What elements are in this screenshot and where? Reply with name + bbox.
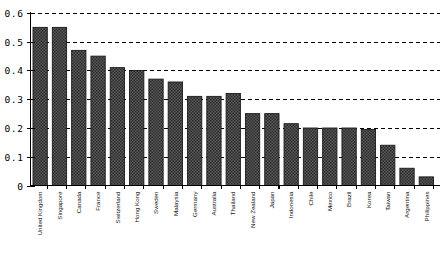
bar-hong-kong	[130, 71, 144, 186]
bar-taiwan	[381, 145, 395, 185]
x-tick-label-japan: Japan	[268, 191, 275, 208]
y-tick-label-0.6: 0.6	[5, 8, 24, 19]
y-tick-label-0.1: 0.1	[5, 152, 24, 163]
x-tick-label-singapore: Singapore	[56, 191, 63, 220]
bar-new-zealand	[245, 114, 259, 186]
bar-argentina	[400, 168, 414, 185]
y-tick-label-0.5: 0.5	[5, 37, 24, 48]
bar-united-kingdom	[33, 27, 47, 185]
x-tick-label-taiwan: Taiwan	[384, 191, 391, 211]
bar-canada	[72, 50, 86, 185]
x-tick-label-germany: Germany	[191, 191, 198, 217]
x-tick-label-argentina: Argentina	[403, 191, 410, 218]
x-tick-label-indonesia: Indonesia	[287, 191, 294, 218]
bar-korea	[361, 129, 375, 185]
x-tick-label-thailand: Thailand	[229, 191, 236, 215]
chart-canvas: 00.10.20.30.40.50.6 United KingdomSingap…	[0, 0, 444, 260]
bar-sweden	[149, 79, 163, 185]
x-tick-label-new-zealand: New Zealand	[249, 191, 256, 228]
bar-france	[91, 56, 105, 185]
bar-malaysia	[168, 82, 182, 186]
bar-switzerland	[110, 68, 124, 186]
x-tick-label-hong-kong: Hong Kong	[133, 191, 140, 223]
bar-germany	[187, 96, 201, 185]
x-tick-label-mexico: Mexico	[326, 191, 333, 211]
y-tick-label-0.4: 0.4	[5, 65, 24, 76]
x-tick-label-australia: Australia	[210, 191, 217, 216]
x-tick-label-chile: Chile	[307, 191, 314, 206]
x-tick-label-philippines: Philippines	[423, 192, 430, 222]
bar-singapore	[52, 27, 66, 185]
x-tick-label-united-kingdom: United Kingdom	[36, 192, 43, 236]
bar-brazil	[342, 128, 356, 186]
bar-philippines	[419, 177, 433, 186]
x-tick-label-malaysia: Malaysia	[172, 191, 179, 216]
bar-indonesia	[284, 124, 298, 186]
bar-australia	[207, 96, 221, 185]
x-tick-label-switzerland: Switzerland	[114, 191, 121, 224]
x-tick-label-canada: Canada	[75, 191, 82, 213]
bar-japan	[265, 114, 279, 186]
y-tick-label-0: 0	[17, 181, 23, 192]
x-tick-label-france: France	[94, 191, 101, 211]
x-tick-label-sweden: Sweden	[152, 191, 159, 214]
bar-chart: 00.10.20.30.40.50.6 United KingdomSingap…	[0, 0, 444, 260]
bar-thailand	[226, 94, 240, 186]
x-tick-label-brazil: Brazil	[345, 192, 352, 207]
bar-chile	[303, 128, 317, 186]
bar-mexico	[323, 128, 337, 186]
x-tick-label-korea: Korea	[365, 191, 372, 208]
y-tick-label-0.3: 0.3	[5, 94, 24, 105]
y-tick-label-0.2: 0.2	[5, 123, 24, 134]
